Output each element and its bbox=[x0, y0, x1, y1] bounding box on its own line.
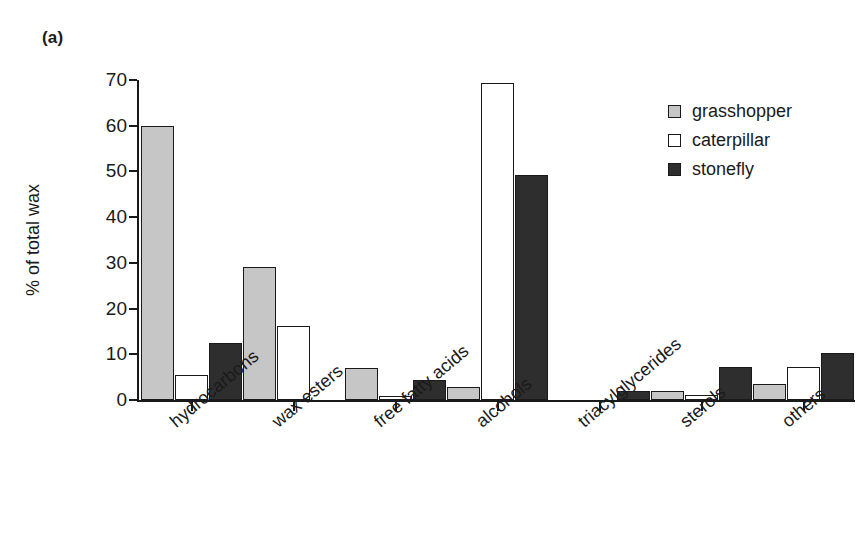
y-axis-tick-labels: 010203040506070 bbox=[79, 80, 127, 400]
legend-swatch-icon bbox=[668, 163, 681, 176]
bar bbox=[447, 387, 480, 400]
y-tick-label: 30 bbox=[106, 252, 127, 274]
bar bbox=[481, 83, 514, 400]
y-tick-mark bbox=[129, 170, 137, 172]
y-tick-label: 70 bbox=[106, 69, 127, 91]
legend-label: caterpillar bbox=[692, 130, 770, 151]
panel-label: (a) bbox=[42, 28, 63, 48]
y-tick-mark bbox=[129, 262, 137, 264]
y-tick-mark bbox=[129, 125, 137, 127]
bar bbox=[515, 175, 548, 400]
y-tick-label: 10 bbox=[106, 343, 127, 365]
bar bbox=[243, 267, 276, 400]
y-tick-label: 40 bbox=[106, 206, 127, 228]
figure-panel-a: (a) % of total wax 010203040506070 hydro… bbox=[0, 0, 856, 550]
legend-swatch-icon bbox=[668, 134, 681, 147]
y-tick-label: 50 bbox=[106, 160, 127, 182]
legend-item-caterpillar[interactable]: caterpillar bbox=[668, 127, 848, 153]
y-tick-mark bbox=[129, 216, 137, 218]
y-axis-label: % of total wax bbox=[23, 184, 44, 296]
bar bbox=[821, 353, 854, 400]
legend-item-stonefly[interactable]: stonefly bbox=[668, 156, 848, 182]
y-tick-mark bbox=[129, 79, 137, 81]
legend: grasshoppercaterpillarstonefly bbox=[668, 98, 848, 185]
y-tick-label: 20 bbox=[106, 298, 127, 320]
y-tick-label: 60 bbox=[106, 115, 127, 137]
legend-swatch-icon bbox=[668, 105, 681, 118]
legend-label: grasshopper bbox=[692, 101, 792, 122]
bar bbox=[651, 391, 684, 400]
y-tick-mark bbox=[129, 399, 137, 401]
y-tick-mark bbox=[129, 353, 137, 355]
bar bbox=[753, 384, 786, 400]
bar bbox=[345, 368, 378, 400]
y-tick-mark bbox=[129, 308, 137, 310]
legend-label: stonefly bbox=[692, 159, 754, 180]
legend-item-grasshopper[interactable]: grasshopper bbox=[668, 98, 848, 124]
bar bbox=[141, 126, 174, 400]
y-tick-label: 0 bbox=[116, 389, 127, 411]
